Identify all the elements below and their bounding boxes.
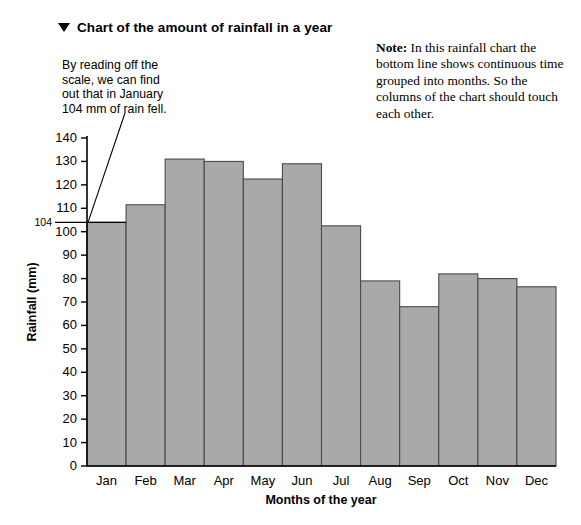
bar-feb bbox=[126, 205, 165, 466]
y-tick-label: 90 bbox=[63, 247, 77, 262]
x-tick-label-jun: Jun bbox=[291, 473, 312, 488]
y-tick-label: 130 bbox=[55, 153, 77, 168]
y-tick-label: 50 bbox=[63, 341, 77, 356]
x-tick-label-apr: Apr bbox=[214, 473, 235, 488]
x-tick-label-mar: Mar bbox=[174, 473, 197, 488]
x-tick-label-oct: Oct bbox=[448, 473, 469, 488]
x-tick-label-aug: Aug bbox=[369, 473, 392, 488]
x-axis-title: Months of the year bbox=[265, 493, 376, 507]
y-tick-label: 60 bbox=[63, 317, 77, 332]
y-tick-label: 0 bbox=[70, 458, 77, 473]
bar-jan bbox=[87, 222, 126, 466]
y-axis-title: Rainfall (mm) bbox=[25, 262, 39, 341]
x-tick-label-jul: Jul bbox=[333, 473, 350, 488]
chart-page: Chart of the amount of rainfall in a yea… bbox=[0, 0, 581, 525]
x-tick-label-dec: Dec bbox=[525, 473, 549, 488]
y-tick-label: 110 bbox=[56, 200, 77, 215]
y-tick-label: 100 bbox=[55, 224, 77, 239]
bar-oct bbox=[439, 274, 478, 466]
y-tick-label: 80 bbox=[63, 271, 77, 286]
callout-pointer-line bbox=[88, 113, 125, 222]
bar-sep bbox=[400, 307, 439, 466]
x-axis-labels: JanFebMarAprMayJunJulAugSepOctNovDec bbox=[96, 473, 548, 488]
y-tick-label: 10 bbox=[63, 435, 77, 450]
bars-group bbox=[87, 159, 556, 466]
x-tick-label-may: May bbox=[251, 473, 276, 488]
x-tick-label-sep: Sep bbox=[408, 473, 431, 488]
bar-may bbox=[243, 179, 282, 466]
bar-mar bbox=[165, 159, 204, 466]
x-tick-label-nov: Nov bbox=[486, 473, 510, 488]
y-tick-label: 70 bbox=[63, 294, 77, 309]
x-tick-label-jan: Jan bbox=[96, 473, 117, 488]
y-tick-label: 20 bbox=[63, 411, 77, 426]
x-tick-label-feb: Feb bbox=[134, 473, 156, 488]
bar-nov bbox=[478, 279, 517, 466]
bar-apr bbox=[204, 161, 243, 466]
callout-leader-lines bbox=[88, 113, 125, 222]
y-tick-label: 140 bbox=[55, 130, 77, 145]
bar-jun bbox=[282, 164, 321, 466]
bar-jul bbox=[322, 226, 361, 466]
y-tick-label: 30 bbox=[63, 388, 77, 403]
y-tick-label: 40 bbox=[63, 364, 77, 379]
bar-dec bbox=[517, 287, 556, 466]
y-tick-label: 120 bbox=[55, 177, 77, 192]
y-tick-label-104: 104 bbox=[34, 216, 52, 228]
rainfall-bar-chart: 0102030405060708090100110120130140104 Ja… bbox=[0, 0, 581, 525]
bar-aug bbox=[361, 281, 400, 466]
